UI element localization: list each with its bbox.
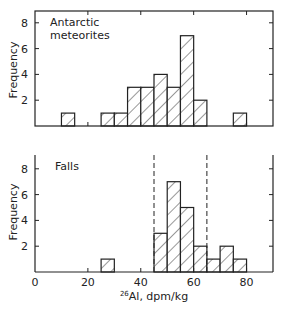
histogram-bar xyxy=(114,113,127,126)
top-annotation-line1: Antarctic xyxy=(50,16,99,29)
y-tick-label: 4 xyxy=(21,68,28,81)
histogram-bar xyxy=(233,113,246,126)
top-y-axis-label: Frequency xyxy=(7,41,20,98)
y-tick-label: 2 xyxy=(21,94,28,107)
histogram-bar xyxy=(141,87,154,126)
x-tick-label: 20 xyxy=(81,276,95,289)
histogram-bar xyxy=(233,259,246,272)
y-tick-label: 4 xyxy=(21,214,28,227)
histogram-bar xyxy=(194,100,207,126)
x-tick-label: 0 xyxy=(32,276,39,289)
bottom-annotation: Falls xyxy=(55,160,79,173)
histogram-bar xyxy=(194,246,207,272)
histogram-bar xyxy=(220,246,233,272)
bottom-y-axis-label: Frequency xyxy=(7,183,20,240)
antarctic-meteorites-panel: 2468 Antarctic meteorites Frequency xyxy=(7,11,273,126)
histogram-bar xyxy=(180,208,193,273)
histogram-bar xyxy=(101,113,114,126)
x-axis-label-text: Al, dpm/kg xyxy=(129,290,188,303)
x-tick-label: 40 xyxy=(134,276,148,289)
histogram-figure: 2468 Antarctic meteorites Frequency 2468… xyxy=(0,0,284,313)
histogram-bar xyxy=(180,36,193,126)
y-tick-label: 8 xyxy=(21,163,28,176)
histogram-bar xyxy=(207,259,220,272)
histogram-bar xyxy=(128,87,141,126)
x-axis-label: 26Al, dpm/kg xyxy=(120,290,188,303)
falls-histogram-bars xyxy=(101,182,246,272)
histogram-bar xyxy=(61,113,74,126)
y-tick-label: 6 xyxy=(21,43,28,56)
top-annotation-line2: meteorites xyxy=(50,29,110,42)
histogram-bar xyxy=(154,74,167,126)
y-tick-label: 6 xyxy=(21,189,28,202)
histogram-bar xyxy=(167,87,180,126)
histogram-bar xyxy=(154,233,167,272)
histogram-bar xyxy=(101,259,114,272)
histogram-bar xyxy=(167,182,180,272)
x-tick-label: 60 xyxy=(187,276,201,289)
y-tick-label: 2 xyxy=(21,240,28,253)
y-tick-label: 8 xyxy=(21,17,28,30)
x-tick-label: 80 xyxy=(240,276,254,289)
antarctic-histogram-bars xyxy=(61,36,246,126)
falls-panel: 2468020406080 Falls Frequency 26Al, dpm/… xyxy=(7,155,273,303)
